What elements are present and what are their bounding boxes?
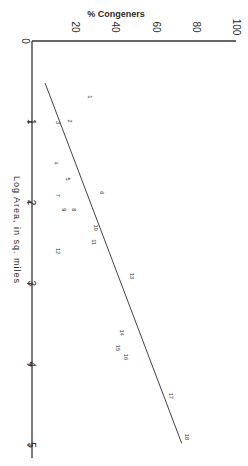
x-tick-label: 1 [26,119,37,125]
y-tick-label: 60 [151,21,162,33]
y-tick-label: 0 [20,38,31,44]
data-point-label: 7 [55,194,61,197]
data-point-label: 12 [55,248,61,254]
data-point-label: 9 [61,208,67,211]
data-point-label: 10 [93,225,99,231]
regression-line [45,83,182,443]
y-axis-title: % Congeners [87,9,145,19]
x-tick-label: 5 [26,442,37,448]
data-point-label: 13 [129,273,135,279]
x-tick-label: 2 [26,200,37,206]
y-tick-label: 40 [110,21,121,33]
data-point-label: 11 [91,239,97,245]
y-tick-label: 80 [191,21,202,33]
x-tick-label: 4 [26,361,37,367]
data-point-label: 8 [71,208,77,211]
scatter-chart: 02040608010012345 % CongenersLog Area, i… [0,0,248,466]
data-point-label: 1 [87,95,93,98]
fit-line [45,83,182,443]
data-point-label: 2 [67,119,73,122]
data-point-label: 16 [123,354,129,360]
data-point-label: 14 [119,330,125,336]
data-point-label: 3 [55,121,61,124]
data-point-label: 17 [168,393,174,399]
data-point-label: 5 [65,178,71,181]
x-tick-label: 3 [26,281,37,287]
y-tick-label: 100 [231,19,242,36]
y-tick-label: 20 [70,21,81,33]
tick-labels: 02040608010012345 [20,19,242,449]
data-point-label: 4 [53,161,59,164]
data-point-label: 6 [99,191,105,194]
axes [32,41,236,458]
data-point-label: 18 [184,434,190,440]
data-point-label: 15 [115,345,121,351]
x-axis-title: Log Area, in sq. miles [12,176,22,284]
data-points: 123456789101112131415161718 [53,95,190,440]
